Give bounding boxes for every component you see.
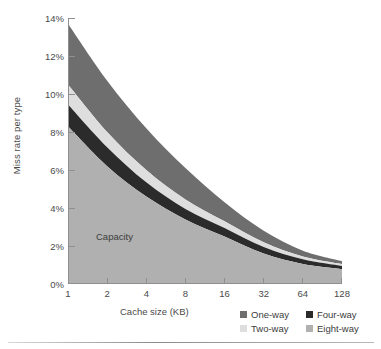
y-axis-title: Miss rate per type	[11, 76, 22, 196]
chart-figure: Miss rate per type 0%2%4%6%8%10%12%14% C…	[0, 0, 381, 349]
legend-label: One-way	[251, 309, 289, 320]
y-tick-label: 10%	[24, 89, 64, 100]
x-tick-label: 8	[165, 288, 205, 299]
y-tick-label: 4%	[24, 203, 64, 214]
legend-swatch-icon	[306, 311, 313, 318]
legend-label: Eight-way	[317, 323, 359, 334]
legend-label: Four-way	[317, 309, 357, 320]
x-axis-title: Cache size (KB)	[120, 306, 189, 317]
x-tick-label: 1	[48, 288, 88, 299]
capacity-annotation: Capacity	[96, 231, 133, 242]
x-tick-label: 4	[126, 288, 166, 299]
y-tick-label: 14%	[24, 13, 64, 24]
x-tick-label: 32	[244, 288, 284, 299]
chart-legend: One-wayFour-wayTwo-wayEight-way	[240, 307, 381, 335]
x-tick-label: 128	[322, 288, 362, 299]
stacked-area-plot	[68, 18, 342, 284]
legend-item-one-way[interactable]: One-way	[240, 309, 306, 320]
x-axis-tick-labels: 1248163264128	[68, 288, 342, 304]
y-axis-tick-labels: 0%2%4%6%8%10%12%14%	[22, 18, 64, 284]
plot-area	[68, 18, 342, 284]
legend-swatch-icon	[240, 325, 247, 332]
x-tick-label: 16	[205, 288, 245, 299]
y-tick-label: 12%	[24, 51, 64, 62]
legend-swatch-icon	[306, 325, 313, 332]
y-tick-label: 8%	[24, 127, 64, 138]
legend-label: Two-way	[251, 323, 288, 334]
page-bottom-rule	[8, 342, 374, 343]
legend-item-four-way[interactable]: Four-way	[306, 309, 381, 320]
y-tick-label: 6%	[24, 165, 64, 176]
legend-swatch-icon	[240, 311, 247, 318]
legend-item-two-way[interactable]: Two-way	[240, 323, 306, 334]
x-tick-label: 64	[283, 288, 323, 299]
y-tick-label: 2%	[24, 241, 64, 252]
legend-item-eight-way[interactable]: Eight-way	[306, 323, 381, 334]
x-tick-label: 2	[87, 288, 127, 299]
